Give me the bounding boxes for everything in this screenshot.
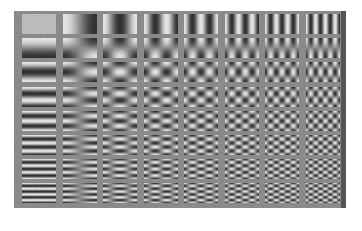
dct-basis-panel xyxy=(14,11,346,208)
panel-right-edge xyxy=(341,11,346,208)
dct-basis-grid-image xyxy=(14,11,346,208)
